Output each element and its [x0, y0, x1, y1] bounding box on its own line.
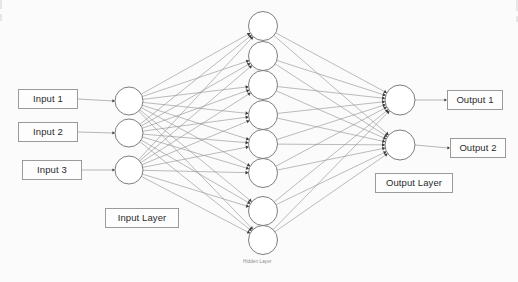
- input-neuron-2[interactable]: [115, 119, 143, 147]
- hidden-neuron-1[interactable]: [249, 12, 278, 41]
- input-connector-line: [78, 99, 114, 101]
- connection-edge: [273, 111, 389, 230]
- connection-edge: [277, 118, 385, 142]
- connection-edge: [276, 91, 386, 139]
- connection-edge: [140, 110, 252, 202]
- hidden-neuron-2[interactable]: [249, 42, 278, 71]
- connection-edge: [276, 33, 387, 93]
- hidden-layer-label: Hidden Layer: [243, 260, 272, 265]
- hidden-neuron-6[interactable]: [249, 159, 278, 188]
- connection-edge: [274, 109, 388, 201]
- connection-edge: [275, 154, 388, 232]
- input-neuron-3[interactable]: [115, 156, 143, 184]
- connection-edge: [139, 37, 254, 160]
- connection-edge: [276, 152, 386, 205]
- connection-edge: [274, 36, 389, 136]
- connection-edge: [277, 102, 385, 114]
- output-neuron-1[interactable]: [385, 85, 415, 115]
- input-label-3[interactable]: Input 3: [22, 160, 82, 180]
- connection-edge: [277, 105, 386, 140]
- output-layer-label[interactable]: Output Layer: [375, 173, 453, 193]
- connection-edge: [276, 107, 387, 166]
- hidden-neuron-5[interactable]: [249, 130, 278, 159]
- connection-edge: [277, 87, 385, 99]
- input-label-1[interactable]: Input 1: [18, 89, 78, 109]
- connection-edge: [141, 63, 250, 126]
- connection-edge: [143, 87, 249, 100]
- output-label-1[interactable]: Output 1: [447, 90, 503, 110]
- input-label-2[interactable]: Input 2: [18, 122, 78, 142]
- neural-network-diagram: Input 1Input 2Input 3Output 1Output 2Inp…: [0, 0, 518, 282]
- hidden-neuron-7[interactable]: [249, 197, 278, 226]
- connection-edge: [143, 117, 249, 131]
- arrowhead: [245, 171, 248, 175]
- connection-edge: [277, 60, 386, 95]
- input-layer-label[interactable]: Input Layer: [105, 208, 179, 228]
- connection-edge: [142, 174, 249, 207]
- edge-artifact-1: [0, 0, 2, 9]
- input-neuron-1[interactable]: [115, 87, 143, 115]
- connection-edge: [142, 121, 250, 165]
- connection-edge: [141, 33, 250, 94]
- hidden-neuron-8[interactable]: [249, 226, 278, 255]
- connection-edge: [141, 93, 251, 163]
- hidden-neuron-3[interactable]: [249, 71, 278, 100]
- arrowhead: [384, 154, 388, 157]
- connection-edge: [275, 64, 387, 137]
- output-neuron-2[interactable]: [385, 130, 415, 160]
- arrowhead: [382, 143, 385, 147]
- connection-edge: [142, 61, 249, 97]
- edge-artifact-2: [0, 14, 2, 21]
- output-label-2[interactable]: Output 2: [450, 138, 506, 158]
- hidden-neuron-4[interactable]: [249, 101, 278, 130]
- output-connector-line: [415, 145, 449, 148]
- input-connector-line: [78, 132, 114, 133]
- connection-edge: [143, 134, 249, 143]
- connection-edge: [278, 144, 386, 145]
